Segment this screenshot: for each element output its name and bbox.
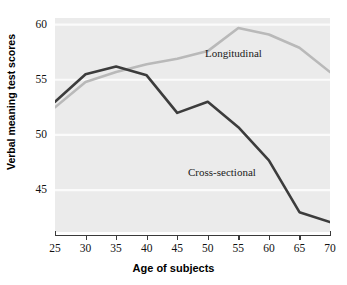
x-tick-50 [208, 235, 209, 240]
chart-canvas [55, 18, 330, 232]
x-tick-label-40: 40 [134, 242, 160, 254]
series-label-cross-sectional: Cross-sectional [188, 166, 256, 178]
x-tick-label-50: 50 [195, 242, 221, 254]
x-axis-line [55, 235, 331, 236]
x-tick-label-30: 30 [73, 242, 99, 254]
series-label-longitudinal: Longitudinal [205, 47, 262, 59]
series-line-longitudinal [55, 28, 330, 107]
x-tick-label-60: 60 [256, 242, 282, 254]
x-axis-cap-left [55, 231, 56, 236]
y-tick-label-60: 60 [25, 18, 47, 30]
y-axis-title: Verbal meaning test scores [5, 17, 17, 187]
plot-area [55, 18, 330, 232]
chart-figure: 45505560 Verbal meaning test scores 2530… [0, 0, 347, 285]
x-tick-65 [299, 235, 300, 240]
x-tick-35 [116, 235, 117, 240]
x-tick-30 [86, 235, 87, 240]
y-tick-label-50: 50 [25, 128, 47, 140]
x-axis-title: Age of subjects [0, 262, 347, 274]
x-tick-55 [238, 235, 239, 240]
y-tick-label-45: 45 [25, 183, 47, 195]
x-tick-label-35: 35 [103, 242, 129, 254]
series-lines [55, 28, 330, 222]
x-tick-label-70: 70 [317, 242, 343, 254]
series-line-cross-sectional [55, 67, 330, 223]
x-tick-45 [177, 235, 178, 240]
x-tick-label-45: 45 [164, 242, 190, 254]
y-tick-label-55: 55 [25, 73, 47, 85]
x-tick-60 [269, 235, 270, 240]
x-tick-label-65: 65 [286, 242, 312, 254]
x-tick-label-55: 55 [225, 242, 251, 254]
x-axis-cap-right [330, 231, 331, 236]
x-tick-label-25: 25 [42, 242, 68, 254]
x-tick-40 [147, 235, 148, 240]
